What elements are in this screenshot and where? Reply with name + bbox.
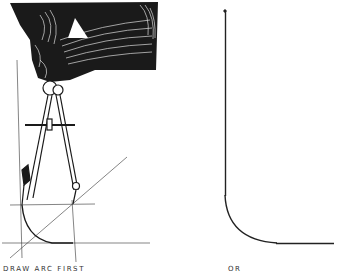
right-panel: [224, 10, 334, 244]
corner-arc: [225, 195, 277, 243]
left-panel: [2, 2, 158, 262]
compass-illustration: [22, 81, 80, 205]
hand-illustration: [10, 2, 158, 82]
construction-lines: [2, 60, 150, 262]
caption-or: OR: [228, 265, 242, 273]
caption-draw-arc-first: DRAW ARC FIRST: [3, 265, 85, 273]
tangent-arc: [22, 205, 73, 243]
illustration-canvas: [0, 0, 339, 279]
